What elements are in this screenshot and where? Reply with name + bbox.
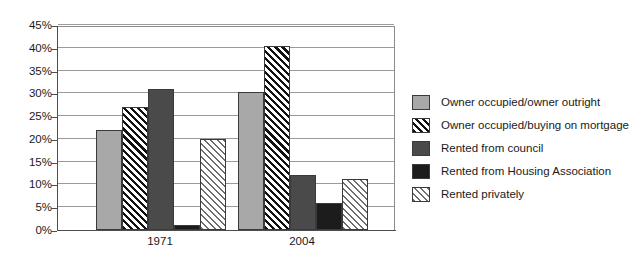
y-tick-label-15%: 15% (29, 157, 52, 169)
legend-swatch-icon (412, 118, 430, 133)
legend-label: Owner occupied/owner outright (441, 97, 600, 109)
legend-swatch-icon (412, 95, 430, 110)
legend-swatch-icon (412, 187, 430, 202)
y-tick-label-0%: 0% (35, 225, 52, 237)
x-group-label-2004: 2004 (289, 236, 315, 248)
bar (290, 175, 316, 230)
gridline-45% (58, 24, 394, 25)
y-tick-label-35%: 35% (29, 66, 52, 78)
y-tick-label-40%: 40% (29, 43, 52, 55)
gridline-25% (58, 115, 394, 116)
legend-label: Rented from council (441, 143, 543, 155)
plot-area (57, 26, 395, 231)
legend-item-1: Owner occupied/buying on mortgage (412, 114, 630, 137)
bar (148, 89, 174, 230)
gridline-35% (58, 70, 394, 71)
bar (342, 179, 368, 230)
y-axis-line (57, 26, 58, 231)
y-axis-tick-labels: 0%5%10%15%20%25%30%35%40%45% (0, 0, 52, 262)
y-tick-mark-0% (51, 231, 57, 232)
y-tick-label-25%: 25% (29, 111, 52, 123)
legend-label: Owner occupied/buying on mortgage (441, 120, 629, 132)
legend-swatch-icon (412, 141, 430, 156)
legend-item-3: Rented from Housing Association (412, 160, 630, 183)
y-tick-label-5%: 5% (35, 202, 52, 214)
bar (122, 107, 148, 230)
bar (96, 130, 122, 230)
x-group-label-1971: 1971 (147, 236, 173, 248)
legend-item-4: Rented privately (412, 183, 630, 206)
bar (200, 139, 226, 230)
y-tick-label-30%: 30% (29, 89, 52, 101)
x-axis-line (57, 230, 396, 231)
bar (238, 92, 264, 230)
chart-legend: Owner occupied/owner outrightOwner occup… (412, 91, 630, 206)
bar (316, 203, 342, 230)
gridline-30% (58, 92, 394, 93)
legend-item-2: Rented from council (412, 137, 630, 160)
legend-label: Rented privately (441, 189, 524, 201)
gridline-40% (58, 47, 394, 48)
bar-chart: 0%5%10%15%20%25%30%35%40%45% 19712004 Ow… (0, 0, 633, 262)
y-tick-label-20%: 20% (29, 134, 52, 146)
bar (264, 46, 290, 231)
legend-item-0: Owner occupied/owner outright (412, 91, 630, 114)
y-tick-label-45%: 45% (29, 20, 52, 32)
legend-swatch-icon (412, 164, 430, 179)
legend-label: Rented from Housing Association (441, 166, 611, 178)
y-tick-label-10%: 10% (29, 180, 52, 192)
